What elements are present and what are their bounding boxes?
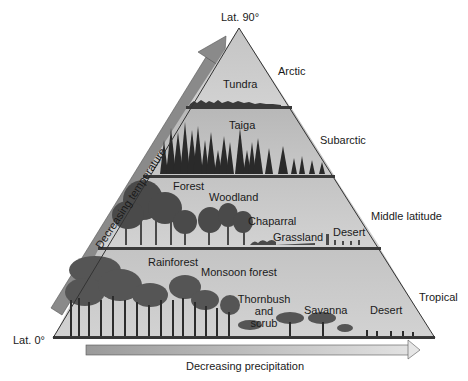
apex-latitude-label: Lat. 90° — [221, 11, 259, 23]
base-latitude-label: Lat. 0° — [13, 334, 45, 346]
biome-label-taiga: Taiga — [229, 119, 255, 131]
biome-label-woodland: Woodland — [209, 191, 258, 203]
biome-label-grassland: Grassland — [273, 231, 323, 243]
biome-label-tundra: Tundra — [223, 78, 257, 90]
precipitation-arrow — [86, 340, 420, 359]
biome-label-rainforest: Rainforest — [148, 256, 198, 268]
biome-label-forest: Forest — [173, 180, 204, 192]
biome-label-desert-tropical: Desert — [370, 304, 402, 316]
biome-label-chaparral: Chaparral — [248, 215, 296, 227]
thornbush-line-2: and — [236, 305, 292, 317]
biome-label-thornbush-scrub: Thornbush and scrub — [236, 293, 292, 329]
zone-label-arctic: Arctic — [278, 65, 306, 77]
thornbush-line-3: scrub — [236, 317, 292, 329]
zone-label-subarctic: Subarctic — [320, 134, 366, 146]
biome-label-monsoon-forest: Monsoon forest — [201, 266, 277, 278]
biome-label-desert-temperate: Desert — [333, 226, 365, 238]
precipitation-axis-label: Decreasing precipitation — [186, 360, 304, 372]
zone-label-tropical: Tropical — [419, 291, 458, 303]
biome-label-savanna: Savanna — [304, 304, 347, 316]
thornbush-line-1: Thornbush — [236, 293, 292, 305]
zone-label-middle-latitude: Middle latitude — [371, 210, 442, 222]
